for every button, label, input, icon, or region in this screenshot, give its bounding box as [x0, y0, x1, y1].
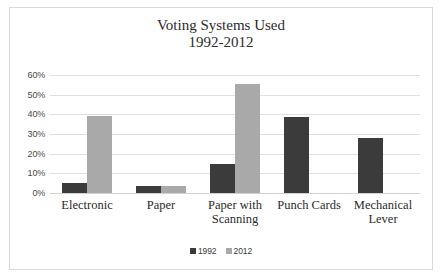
legend-item-1992[interactable]: 1992: [190, 246, 217, 256]
bar-group: [346, 75, 420, 193]
bar-slot: [284, 117, 309, 193]
y-axis-tick-60: 60%: [28, 70, 45, 80]
x-axis-label-paper-with-scanning: Paper withScanning: [198, 198, 272, 227]
legend-label: 2012: [234, 246, 253, 256]
bar-group: [50, 75, 124, 193]
bar-slot: [136, 186, 161, 193]
x-axis-label-paper: Paper: [124, 198, 198, 227]
x-axis-label-punch-cards: Punch Cards: [272, 198, 346, 227]
bar-slot: [62, 183, 87, 193]
chart-title-line-2: 1992-2012: [10, 34, 432, 51]
plot-area: 60%50%40%30%20%10%0%: [50, 75, 420, 193]
bar-1992-paper-with-scanning[interactable]: [210, 164, 235, 194]
x-axis-label-line: Paper: [124, 198, 198, 212]
y-axis-tick-10: 10%: [28, 168, 45, 178]
x-axis-label-mechanical-lever: MechanicalLever: [346, 198, 420, 227]
bar-group: [198, 75, 272, 193]
legend-item-2012[interactable]: 2012: [226, 246, 253, 256]
y-axis-tick-40: 40%: [28, 109, 45, 119]
bar-2012-paper-with-scanning[interactable]: [235, 84, 260, 193]
bar-group: [124, 75, 198, 193]
bar-1992-paper[interactable]: [136, 186, 161, 193]
bar-1992-mechanical-lever[interactable]: [358, 138, 383, 193]
x-axis-label-line: Scanning: [198, 212, 272, 226]
x-axis-label-line: Paper with: [198, 198, 272, 212]
gridline-0: 0%: [50, 193, 420, 194]
bar-1992-electronic[interactable]: [62, 183, 87, 193]
legend-swatch-icon: [226, 248, 232, 254]
legend-swatch-icon: [190, 248, 196, 254]
y-axis-tick-50: 50%: [28, 90, 45, 100]
x-axis-label-line: Mechanical: [346, 198, 420, 212]
chart-legend: 19922012: [10, 246, 432, 256]
bar-slot: [235, 84, 260, 193]
x-axis-label-line: Punch Cards: [272, 198, 346, 212]
chart-title-line-1: Voting Systems Used: [10, 17, 432, 34]
bars-layer: [50, 75, 420, 193]
y-axis-tick-20: 20%: [28, 149, 45, 159]
bar-2012-electronic[interactable]: [87, 116, 112, 193]
chart-container: Voting Systems Used 1992-2012 60%50%40%3…: [9, 7, 433, 270]
x-axis-label-line: Electronic: [50, 198, 124, 212]
bar-2012-paper[interactable]: [161, 186, 186, 193]
legend-label: 1992: [198, 246, 217, 256]
bar-slot: [87, 116, 112, 193]
y-axis-tick-0: 0%: [32, 188, 45, 198]
bar-1992-punch-cards[interactable]: [284, 117, 309, 193]
x-axis-label-electronic: Electronic: [50, 198, 124, 227]
x-axis-labels: ElectronicPaperPaper withScanningPunch C…: [50, 198, 420, 227]
bar-slot: [358, 138, 383, 193]
y-axis-tick-30: 30%: [28, 129, 45, 139]
bar-slot: [210, 164, 235, 194]
x-axis-label-line: Lever: [346, 212, 420, 226]
chart-title: Voting Systems Used 1992-2012: [10, 17, 432, 51]
bar-group: [272, 75, 346, 193]
bar-slot: [161, 186, 186, 193]
